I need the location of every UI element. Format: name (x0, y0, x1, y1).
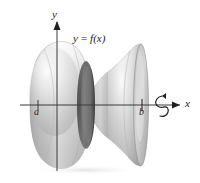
curve-label-y: y (73, 32, 78, 44)
curve-label-equals: = (81, 32, 87, 44)
solid-of-revolution-figure: y x a b y=f(x) (0, 0, 200, 183)
right-end-cap-inner-sheen (136, 50, 145, 142)
figure-canvas (0, 0, 200, 183)
tick-label-a: a (34, 107, 39, 117)
tick-label-b: b (139, 107, 144, 117)
left-bulb-highlight (29, 48, 81, 136)
curve-equation-label: y=f(x) (73, 33, 105, 44)
y-axis-label: y (52, 9, 57, 20)
curve-label-fx: f(x) (90, 32, 105, 44)
revolved-solid (29, 42, 149, 175)
ground-shadow (30, 165, 142, 175)
x-axis-label: x (185, 98, 190, 109)
y-axis-arrowhead-icon (54, 21, 61, 30)
x-axis-arrowhead-icon (172, 102, 180, 109)
